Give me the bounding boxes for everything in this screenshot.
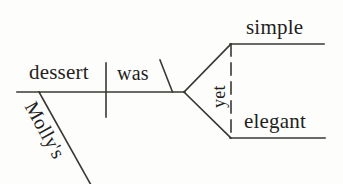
complement-first-label: simple: [246, 17, 303, 38]
sentence-diagram: dessert was Molly's yet simple elegant: [0, 0, 343, 184]
conjunction-label: yet: [210, 85, 228, 108]
subject-label: dessert: [29, 62, 89, 83]
complement-slash-line: [160, 60, 173, 92]
complement-second-label: elegant: [244, 111, 306, 132]
verb-label: was: [117, 63, 149, 83]
